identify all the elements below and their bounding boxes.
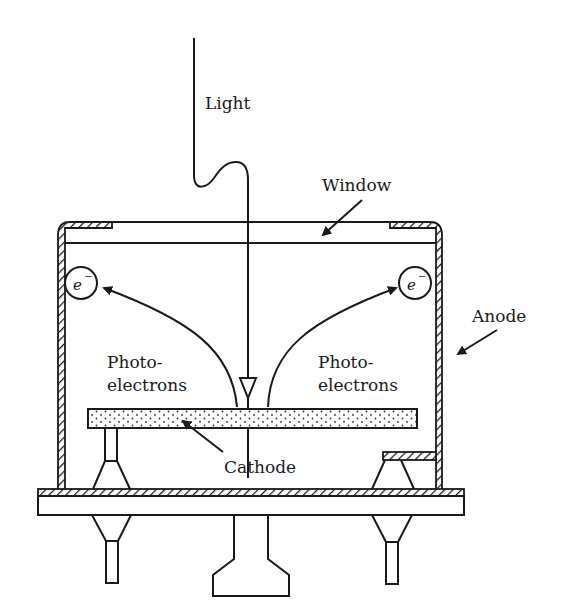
light-arrowhead-icon xyxy=(240,378,256,398)
photoelectrons-left-line2: electrons xyxy=(107,375,187,395)
photoelectrons-right-line1: Photo- xyxy=(318,352,373,372)
electron-left-label: e xyxy=(73,276,82,294)
electron-right-charge: − xyxy=(418,271,426,282)
photoelectrons-left-line1: Photo- xyxy=(107,352,162,372)
pin-left xyxy=(92,515,131,583)
cathode-plate xyxy=(88,409,417,428)
left-support xyxy=(93,428,130,489)
pin-right xyxy=(372,515,412,584)
base-plate xyxy=(38,496,464,515)
photoelectrons-right-line2: electrons xyxy=(318,375,398,395)
cathode-label: Cathode xyxy=(224,457,296,477)
window-label: Window xyxy=(322,175,392,195)
pin-center xyxy=(213,515,289,596)
right-support xyxy=(372,460,414,489)
anode-label: Anode xyxy=(471,306,526,326)
base-plate-hatch xyxy=(38,489,464,496)
electron-right-label: e xyxy=(407,276,416,294)
phototube-diagram: e − e − Light Window Anode Photo- electr… xyxy=(0,0,563,609)
electron-left-charge: − xyxy=(84,271,92,282)
window-pointer-arrow xyxy=(323,200,362,235)
light-label: Light xyxy=(205,93,251,113)
anode-pointer-arrow xyxy=(458,330,497,354)
